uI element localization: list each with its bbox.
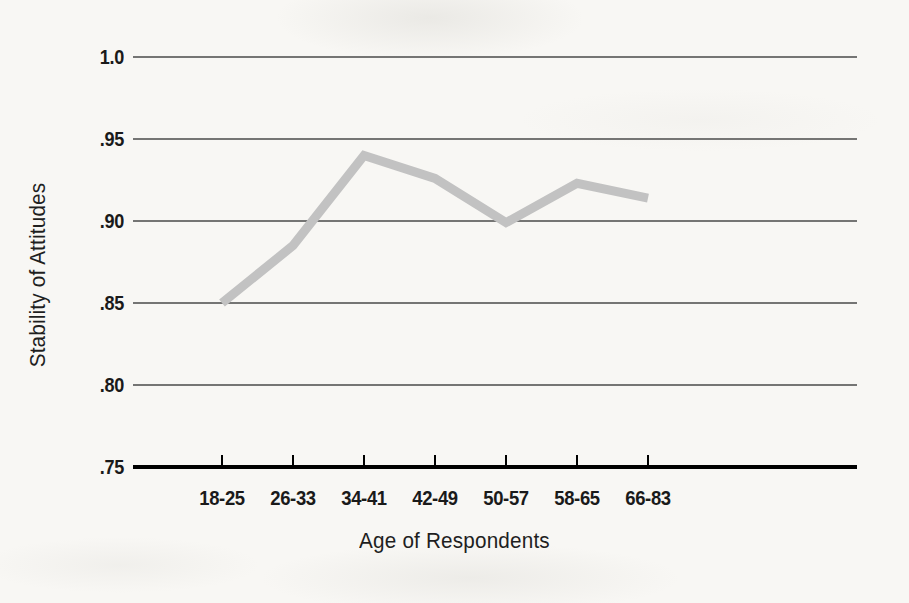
x-axis-tick-label: 66-83 — [608, 487, 687, 508]
y-axis-title: Stability of Attitudes — [25, 134, 51, 416]
y-axis-tick-label: 1.0 — [72, 46, 124, 67]
y-axis-tick-label: .90 — [72, 210, 124, 231]
x-axis-tick-label: 42-49 — [395, 487, 474, 508]
data-series-group — [222, 155, 648, 303]
x-axis-tick-label: 50-57 — [466, 487, 545, 508]
y-axis-tick-label: .85 — [72, 292, 124, 313]
chart-page: 1.0.95.90.85.80.75 18-2526-3334-4142-495… — [0, 0, 909, 603]
y-axis-tick-label: .80 — [72, 374, 124, 395]
x-axis-tick-label: 26-33 — [253, 487, 332, 508]
x-axis-tick-label: 58-65 — [537, 487, 616, 508]
x-axis-ticks-group — [222, 455, 648, 465]
x-axis-tick-label: 18-25 — [182, 487, 261, 508]
line-chart-plot — [0, 0, 909, 603]
x-axis-tick-label: 34-41 — [324, 487, 403, 508]
y-axis-tick-label: .95 — [72, 128, 124, 149]
x-axis-title: Age of Respondents — [27, 528, 881, 554]
y-axis-tick-label: .75 — [72, 456, 124, 477]
data-line-stability-of-attitudes — [222, 155, 648, 303]
